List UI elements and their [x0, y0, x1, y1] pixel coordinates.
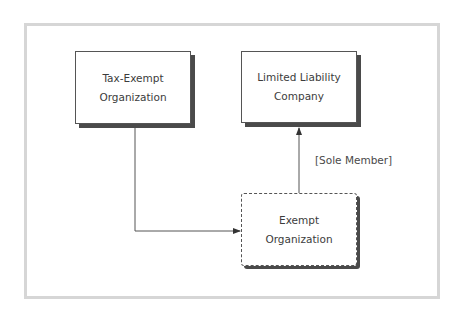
node-label-line1: Limited Liability — [257, 68, 340, 87]
node-label-line2: Company — [274, 87, 324, 106]
node-label-line2: Organization — [265, 230, 332, 249]
node-label-line1: Tax-Exempt — [102, 69, 163, 88]
node-limited-liability-company: Limited Liability Company — [241, 51, 357, 123]
node-tax-exempt-organization: Tax-Exempt Organization — [75, 51, 191, 124]
edge-label-sole-member: [Sole Member] — [315, 154, 392, 166]
node-label-line2: Organization — [99, 88, 166, 107]
node-exempt-organization: Exempt Organization — [241, 193, 357, 266]
node-label-line1: Exempt — [279, 211, 319, 230]
edge-tax-exempt-to-exempt-org — [135, 128, 240, 231]
